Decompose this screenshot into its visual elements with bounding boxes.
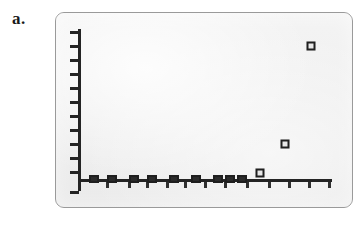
y-axis-tick bbox=[70, 87, 79, 90]
y-axis-line bbox=[78, 29, 81, 191]
y-axis-tick bbox=[70, 115, 79, 118]
data-point-marker bbox=[281, 140, 290, 149]
y-axis-tick bbox=[70, 45, 79, 48]
data-point-marker bbox=[191, 175, 201, 183]
x-axis-tick bbox=[308, 182, 311, 188]
y-axis-tick bbox=[70, 31, 79, 34]
data-point-marker bbox=[147, 175, 157, 183]
data-point-marker bbox=[89, 175, 99, 183]
data-point-marker bbox=[237, 175, 247, 183]
y-axis-tick bbox=[70, 101, 79, 104]
data-point-marker bbox=[225, 175, 235, 183]
x-axis-tick bbox=[184, 182, 187, 188]
y-axis-tick bbox=[70, 171, 79, 174]
y-axis-tick bbox=[70, 157, 79, 160]
data-point-marker bbox=[169, 175, 179, 183]
y-axis-tick bbox=[70, 129, 79, 132]
data-point-marker bbox=[107, 175, 117, 183]
data-point-marker bbox=[307, 42, 316, 51]
x-axis-tick bbox=[268, 182, 271, 188]
figure-root: a. bbox=[0, 0, 364, 225]
axes-layer bbox=[56, 13, 353, 208]
x-axis-tick bbox=[288, 182, 291, 188]
data-point-marker bbox=[256, 169, 265, 178]
y-axis-tick bbox=[70, 191, 79, 194]
data-point-marker bbox=[129, 175, 139, 183]
panel-label: a. bbox=[12, 10, 26, 27]
y-axis-tick bbox=[70, 143, 79, 146]
y-axis-tick bbox=[70, 73, 79, 76]
x-axis-tick bbox=[328, 182, 331, 188]
x-axis-tick bbox=[204, 182, 207, 188]
data-point-marker bbox=[213, 175, 223, 183]
plot-panel bbox=[55, 12, 353, 208]
y-axis-tick bbox=[70, 59, 79, 62]
